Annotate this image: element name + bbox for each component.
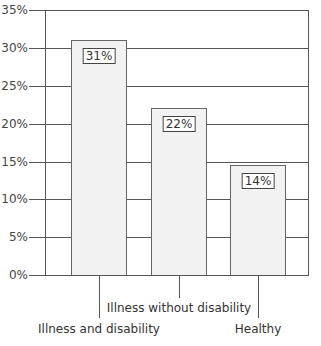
y-tick: [29, 86, 45, 87]
bar-illness-without-disability: 22%: [151, 108, 207, 275]
x-label-healthy: Healthy: [235, 322, 282, 336]
y-tick-label: 30%: [0, 41, 28, 55]
y-tick-label: 35%: [0, 3, 28, 17]
bar-chart: 35% 30% 25% 20% 15% 10% 5% 0% 31% 22% 14…: [0, 0, 321, 346]
y-tick: [29, 124, 45, 125]
y-tick-label: 25%: [0, 79, 28, 93]
bar-healthy: 14%: [230, 165, 286, 275]
value-label: 14%: [242, 173, 275, 189]
y-tick-label: 15%: [0, 155, 28, 169]
y-tick-label: 10%: [0, 192, 28, 206]
value-label: 31%: [83, 48, 116, 64]
bar-illness-and-disability: 31%: [71, 40, 127, 275]
y-tick-label: 20%: [0, 117, 28, 131]
x-tick: [179, 276, 180, 298]
y-tick: [29, 48, 45, 49]
y-tick: [29, 199, 45, 200]
x-tick: [258, 276, 259, 318]
y-tick: [29, 162, 45, 163]
x-axis-baseline: [29, 275, 309, 276]
x-tick: [99, 276, 100, 318]
y-tick: [29, 10, 45, 11]
value-label: 22%: [163, 116, 196, 132]
x-label-illness-and-disability: Illness and disability: [38, 322, 160, 336]
x-label-illness-without-disability: Illness without disability: [107, 301, 251, 315]
y-tick-label: 5%: [0, 230, 28, 244]
y-tick: [29, 237, 45, 238]
y-tick-label: 0%: [0, 268, 28, 282]
